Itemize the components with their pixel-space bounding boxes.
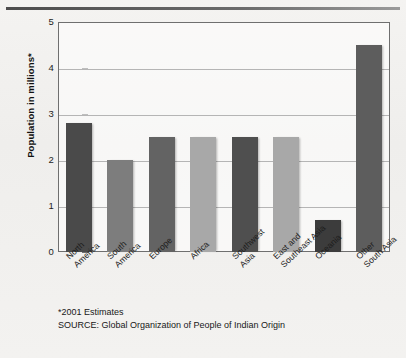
chart-figure: Population in millions* 012345 NorthAmer…	[0, 0, 406, 358]
bar	[356, 45, 382, 252]
footnotes-block: *2001 Estimates SOURCE: Global Organizat…	[58, 306, 398, 331]
y-tick-label: 5	[30, 16, 54, 27]
bar	[190, 137, 216, 252]
y-axis-tick-labels: 012345	[30, 0, 54, 358]
top-divider-rule	[6, 7, 400, 10]
y-tick-label: 2	[30, 154, 54, 165]
bar-series	[58, 22, 390, 252]
footnote-source: SOURCE: Global Organization of People of…	[58, 319, 398, 332]
footnote-estimates: *2001 Estimates	[58, 306, 398, 319]
y-tick-label: 1	[30, 200, 54, 211]
bar	[149, 137, 175, 252]
y-tick-label: 4	[30, 62, 54, 73]
y-tick-label: 0	[30, 246, 54, 257]
y-tick-label: 3	[30, 108, 54, 119]
